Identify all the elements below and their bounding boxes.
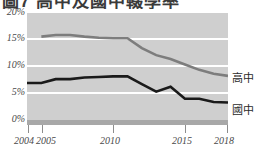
x-tick-2015 [185,125,186,133]
y-tick-label-5: 5% [0,87,25,97]
y-tick-label-15: 15% [0,33,25,43]
series-lines [27,11,228,120]
x-tick-label-2015: 2015 [172,135,192,146]
chart-figure: 圖7 高中及國中輟學率 20% 15% 10% 5% 0% 2004 2005 … [0,0,257,155]
series-label-junior-high: 國中 [232,101,254,117]
y-tick-label-0: 0% [0,114,25,124]
junior-high-line [27,76,228,102]
x-axis-band [27,120,228,125]
x-tick-2004 [28,125,29,133]
y-tick-label-20: 20% [0,7,25,17]
y-axis-labels: 20% 15% 10% 5% 0% [0,11,25,120]
x-tick-label-2010: 2010 [100,135,120,146]
x-tick-label-2005: 2005 [36,135,56,146]
senior-high-line [41,35,228,76]
x-tick-2010 [113,125,114,133]
x-tick-label-2018: 2018 [214,135,234,146]
figure-title-cropped: 圖7 高中及國中輟學率 [0,0,257,9]
page-title: 圖7 高中及國中輟學率 [2,0,180,9]
x-tick-2005 [42,125,43,133]
x-tick-label-2004: 2004 [14,135,34,146]
x-tick-2018 [227,125,228,133]
y-tick-label-10: 10% [0,60,25,70]
series-label-senior-high: 高中 [232,69,254,85]
plot-area [27,11,228,120]
